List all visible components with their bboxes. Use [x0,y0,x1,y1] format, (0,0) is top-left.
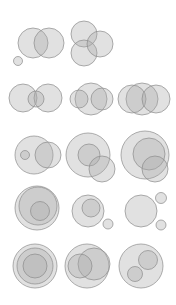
set-circle [142,85,170,113]
set-circle [142,156,168,182]
diagram-canvas [0,0,176,305]
set-circle [82,199,100,217]
set-circle [68,254,92,278]
circle-diagram-r2d1 [9,84,62,112]
set-circle [87,31,113,57]
set-circle [21,151,30,160]
circle-diagram-r5d1 [13,244,57,288]
set-circle [139,251,158,270]
set-circle [35,142,61,168]
circle-diagram-r3d1 [15,136,61,174]
set-circle [128,267,143,282]
set-circle [89,156,115,182]
circle-diagram-r2d2 [70,83,113,115]
circle-diagram-r4d2 [72,195,113,229]
circle-diagram-r1d1 [14,28,65,66]
circle-diagram-r5d3 [119,244,163,288]
set-circle [28,91,44,107]
set-circle [125,195,157,227]
circle-diagram-r3d3 [121,131,169,182]
set-circle [23,254,47,278]
circle-diagram-r4d1 [15,186,59,230]
circle-diagram-r4d3 [125,193,167,231]
set-circle [14,57,23,66]
set-circle [31,202,50,221]
set-circle [103,219,113,229]
set-circle [34,28,64,58]
set-circle [156,220,166,230]
set-circle [156,193,167,204]
circle-diagram-r1d2 [71,21,113,66]
circle-diagram-r2d3 [118,83,170,115]
set-circle [70,90,88,108]
set-circle [91,88,113,110]
circle-diagram-r5d2 [65,244,110,288]
circle-diagram-r3d2 [66,133,115,182]
